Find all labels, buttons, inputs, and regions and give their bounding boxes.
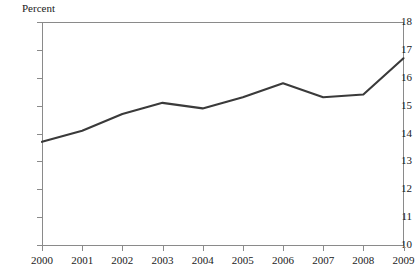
data-line-percent [42,58,404,142]
